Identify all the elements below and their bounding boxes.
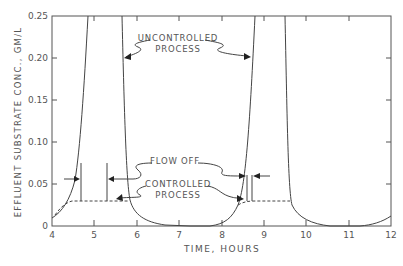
y-tick-label: 0.25 [28,11,48,21]
annotation-uncontrolled: UNCONTROLLED PROCESS [124,33,251,60]
flow-off-arrows [64,176,133,182]
y-axis-title: EFFLUENT SUBSTRATE CONC., GM/L [13,27,23,218]
controlled-process-curve [55,201,290,215]
y-tick-label: 0.20 [28,53,48,63]
x-tick-label: 8 [219,230,225,240]
chart: 0 0.05 0.10 0.15 0.20 0.25 4 5 6 7 8 9 1… [0,0,403,266]
svg-text:UNCONTROLLED: UNCONTROLLED [138,33,218,43]
x-tick-label: 9 [261,230,267,240]
y-tick-labels: 0 0.05 0.10 0.15 0.20 0.25 [28,11,48,231]
x-axis-title: TIME, HOURS [183,244,260,254]
y-axis [52,58,391,184]
svg-text:FLOW OFF: FLOW OFF [150,156,200,166]
annotation-controlled: CONTROLLED PROCESS [116,179,244,202]
x-tick-label: 12 [385,230,396,240]
x-tick-labels: 4 5 6 7 8 9 10 11 12 [49,230,397,240]
x-tick-label: 10 [300,230,312,240]
y-tick-label: 0.05 [28,179,48,189]
annotation-flow-off: FLOW OFF [133,156,270,179]
x-tick-label: 4 [49,230,55,240]
x-tick-label: 5 [91,230,97,240]
svg-text:CONTROLLED: CONTROLLED [145,179,211,189]
x-tick-label: 11 [343,230,354,240]
svg-text:PROCESS: PROCESS [155,44,200,54]
y-tick-label: 0.15 [28,95,48,105]
y-tick-label: 0 [42,221,48,231]
x-tick-label: 7 [176,230,182,240]
svg-text:PROCESS: PROCESS [155,190,200,200]
x-tick-label: 6 [134,230,140,240]
y-tick-label: 0.10 [28,137,48,147]
